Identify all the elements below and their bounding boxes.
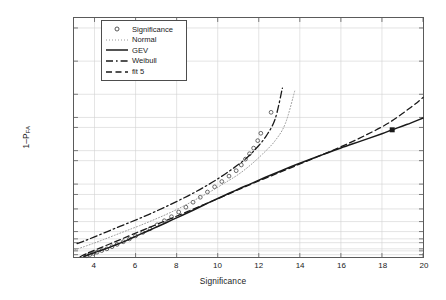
x-tick-label: 10	[213, 262, 222, 270]
x-tick-label: 4	[91, 262, 95, 270]
legend-key-icon	[105, 35, 129, 45]
legend-label: GEV	[132, 47, 148, 55]
probability-plot-figure: 0.0010.0050.010.050.10.250.50.750.90.950…	[0, 0, 446, 300]
x-tick-label: 8	[174, 262, 178, 270]
legend-label: Weibull	[132, 57, 157, 65]
highlight-square-marker	[390, 127, 395, 132]
y-axis-label: 1–PFA	[21, 107, 31, 167]
x-tick-label: 16	[337, 262, 346, 270]
legend-item-normal[interactable]: Normal	[105, 35, 182, 46]
x-tick-label: 18	[378, 262, 387, 270]
legend-key-icon	[105, 67, 129, 77]
legend-key-icon	[105, 56, 129, 66]
legend-label: Normal	[132, 36, 156, 44]
legend-item-significance[interactable]: Significance	[105, 24, 182, 35]
x-axis-label: Significance	[0, 276, 446, 286]
x-tick-label: 12	[254, 262, 263, 270]
x-tick-label: 20	[420, 262, 429, 270]
chart-legend[interactable]: SignificanceNormalGEVWeibullfit 5	[101, 20, 187, 81]
legend-label: fit 5	[132, 68, 144, 76]
legend-item-gev[interactable]: GEV	[105, 45, 182, 56]
legend-key-icon	[105, 24, 129, 34]
legend-label: Significance	[132, 26, 173, 34]
legend-item-weibull[interactable]: Weibull	[105, 56, 182, 67]
x-tick-label: 6	[133, 262, 137, 270]
legend-key-icon	[105, 45, 129, 55]
x-tick-label: 14	[296, 262, 305, 270]
legend-item-fit-5[interactable]: fit 5	[105, 66, 182, 77]
